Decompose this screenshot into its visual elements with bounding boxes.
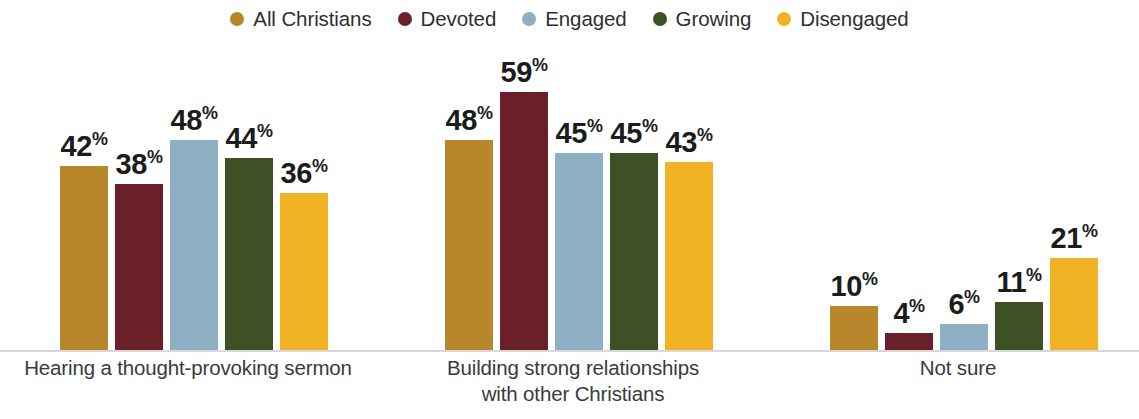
legend-label-growing: Growing <box>676 7 752 31</box>
bar-group-sermon-bars: 42%38%48%44%36% <box>60 42 328 350</box>
legend-swatch-growing <box>653 12 667 26</box>
bar-value-label: 6% <box>948 288 979 319</box>
bar-value-label: 36% <box>281 157 328 188</box>
bar-rect <box>445 140 493 350</box>
legend-item-growing: Growing <box>653 7 752 31</box>
bar-value-label: 48% <box>171 104 218 135</box>
bar-not-sure-engaged: 6% <box>940 42 988 350</box>
bar-value-label: 10% <box>831 270 878 301</box>
bar-relationships-engaged: 45% <box>555 42 603 350</box>
bar-relationships-devoted: 59% <box>500 42 548 350</box>
bar-sermon-devoted: 38% <box>115 42 163 350</box>
chart-legend: All Christians Devoted Engaged Growing D… <box>0 6 1139 32</box>
x-axis-baseline <box>0 350 1139 352</box>
bar-rect <box>830 306 878 350</box>
bar-value-label: 11% <box>996 266 1041 297</box>
bar-rect <box>170 140 218 350</box>
category-label-not-sure: Not sure <box>838 355 1078 381</box>
bar-relationships-all-christians: 48% <box>445 42 493 350</box>
bar-rect <box>1050 258 1098 350</box>
bar-rect <box>500 92 548 350</box>
bar-rect <box>665 162 713 350</box>
bar-rect <box>995 302 1043 350</box>
category-axis-labels: Hearing a thought-provoking sermon Build… <box>0 355 1139 419</box>
bar-value-label: 45% <box>556 117 603 148</box>
bar-group-not-sure-bars: 10%4%6%11%21% <box>830 42 1098 350</box>
bar-sermon-disengaged: 36% <box>280 42 328 350</box>
bar-rect <box>115 184 163 350</box>
bar-value-label: 43% <box>666 126 713 157</box>
legend-item-devoted: Devoted <box>398 7 497 31</box>
legend-swatch-all-christians <box>230 12 244 26</box>
bar-rect <box>610 153 658 350</box>
category-label-line: with other Christians <box>413 381 733 407</box>
legend-item-disengaged: Disengaged <box>777 7 908 31</box>
category-label-line: Not sure <box>838 355 1078 381</box>
category-label-line: Building strong relationships <box>413 355 733 381</box>
bar-value-label: 38% <box>116 148 163 179</box>
legend-swatch-disengaged <box>777 12 791 26</box>
bar-rect <box>555 153 603 350</box>
bar-value-label: 4% <box>893 297 924 328</box>
bar-value-label: 59% <box>501 56 548 87</box>
bar-rect <box>280 193 328 350</box>
bar-not-sure-all-christians: 10% <box>830 42 878 350</box>
legend-label-disengaged: Disengaged <box>800 7 908 31</box>
bar-value-label: 45% <box>611 117 658 148</box>
category-label-sermon: Hearing a thought-provoking sermon <box>0 355 376 381</box>
bar-group-relationships-bars: 48%59%45%45%43% <box>445 42 713 350</box>
bar-relationships-disengaged: 43% <box>665 42 713 350</box>
bar-value-label: 21% <box>1051 222 1098 253</box>
bar-value-label: 48% <box>446 104 493 135</box>
bar-rect <box>940 324 988 350</box>
category-label-line: Hearing a thought-provoking sermon <box>0 355 376 381</box>
bar-chart-plot-area: 42%38%48%44%36% 48%59%45%45%43% 10%4%6%1… <box>0 40 1139 352</box>
legend-item-engaged: Engaged <box>522 7 626 31</box>
legend-label-all-christians: All Christians <box>253 7 371 31</box>
bar-value-label: 44% <box>226 122 273 153</box>
legend-swatch-devoted <box>398 12 412 26</box>
legend-label-engaged: Engaged <box>545 7 626 31</box>
legend-label-devoted: Devoted <box>421 7 497 31</box>
bar-sermon-all-christians: 42% <box>60 42 108 350</box>
bar-not-sure-devoted: 4% <box>885 42 933 350</box>
bar-rect <box>225 158 273 350</box>
legend-item-all-christians: All Christians <box>230 7 371 31</box>
bar-rect <box>885 333 933 350</box>
category-label-relationships: Building strong relationshipswith other … <box>413 355 733 406</box>
bar-value-label: 42% <box>61 130 108 161</box>
bar-rect <box>60 166 108 350</box>
bar-relationships-growing: 45% <box>610 42 658 350</box>
bar-not-sure-disengaged: 21% <box>1050 42 1098 350</box>
legend-swatch-engaged <box>522 12 536 26</box>
bar-sermon-engaged: 48% <box>170 42 218 350</box>
bar-not-sure-growing: 11% <box>995 42 1043 350</box>
bar-sermon-growing: 44% <box>225 42 273 350</box>
